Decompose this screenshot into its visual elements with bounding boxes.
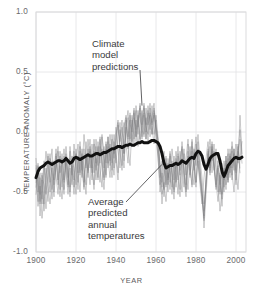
x-tick-label: 1980	[176, 256, 216, 265]
annotation-line: predicted	[88, 207, 145, 218]
x-tick-label: 1900	[16, 256, 56, 265]
annotation-climate-model-predictions: Climate model predictions	[92, 38, 138, 72]
annotation-line: model	[92, 49, 138, 60]
x-axis-title: YEAR	[0, 276, 263, 285]
x-tick-label: 2000	[216, 256, 256, 265]
annotation-line: temperatures	[88, 230, 145, 241]
annotation-line: Average	[88, 196, 145, 207]
x-tick-label: 1920	[56, 256, 96, 265]
y-axis-title: TEMPERATURE ANOMALY (°C)	[22, 58, 31, 208]
y-tick-label: 1.0	[2, 7, 28, 16]
x-tick-label: 1940	[96, 256, 136, 265]
annotation-line: predictions	[92, 61, 138, 72]
annotation-average-predicted-annual-temperatures: Average predicted annual temperatures	[88, 196, 145, 242]
y-tick-label: -1.0	[2, 247, 28, 256]
annotation-line: annual	[88, 219, 145, 230]
leader-line-climate	[140, 70, 142, 106]
climate-model-chart-figure: 1.00.50.0-0.5-1.0 1900192019401960198020…	[0, 0, 263, 289]
x-tick-label: 1960	[136, 256, 176, 265]
annotation-line: Climate	[92, 38, 138, 49]
